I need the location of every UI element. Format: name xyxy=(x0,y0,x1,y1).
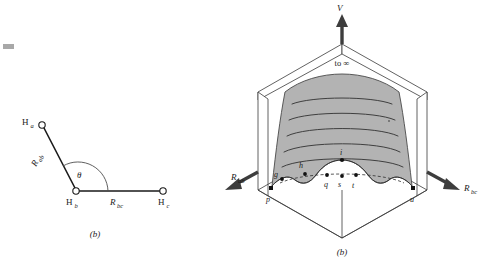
box-floor-inner-edges xyxy=(268,196,417,238)
point-t-label: t xyxy=(352,181,355,190)
axis-rab-subscript: ab xyxy=(238,177,245,184)
bond-bc-subscript: bc xyxy=(117,202,123,209)
atom-hb-label: H b xyxy=(66,197,79,209)
bond-ab-line xyxy=(44,128,76,190)
bond-angle-label: θ xyxy=(77,170,82,180)
axis-rab-symbol: R xyxy=(230,172,237,182)
atom-ha-marker xyxy=(39,122,45,128)
atom-hb-subscript: b xyxy=(75,202,79,209)
potential-surface-body xyxy=(272,74,412,186)
point-q-dot xyxy=(325,173,329,177)
h3-geometry-diagram: H a H b H c R ab R bc xyxy=(22,117,170,239)
point-h-dot xyxy=(303,172,307,176)
box-floor-front-edges xyxy=(258,190,427,238)
point-s-dot xyxy=(340,174,344,178)
point-u-label: u xyxy=(410,195,414,204)
point-p-label: p xyxy=(265,195,270,204)
point-t-dot xyxy=(354,173,358,177)
surface-speck xyxy=(388,120,389,121)
axis-v-arrowhead xyxy=(336,14,348,27)
atom-hc-marker xyxy=(160,188,166,194)
atom-ha-label: H a xyxy=(22,117,34,129)
atom-ha-subscript: a xyxy=(31,122,34,129)
atom-hc-subscript: c xyxy=(167,202,170,209)
point-p-dot xyxy=(269,186,273,190)
axis-rab: R ab xyxy=(225,172,258,190)
scan-artifact-mark xyxy=(3,44,14,49)
panel-left-caption: (b) xyxy=(90,229,101,239)
potential-energy-surface-3d: g h i q s t p u V R ab xyxy=(225,3,477,257)
axis-v-label: V xyxy=(337,3,344,13)
bond-ab-label: R ab xyxy=(28,151,45,169)
bond-bc-label: R bc xyxy=(109,197,123,209)
atom-ha-element: H xyxy=(22,117,29,127)
axis-v: V xyxy=(336,3,348,44)
box-wall-left xyxy=(258,92,268,196)
point-h-label: h xyxy=(299,161,303,170)
point-q-label: q xyxy=(324,180,328,189)
axis-rbc-symbol: R xyxy=(463,183,470,193)
point-i-label: i xyxy=(340,148,342,157)
axis-rbc-arrowhead xyxy=(443,178,460,190)
figure-canvas: H a H b H c R ab R bc xyxy=(0,0,500,262)
point-u-dot xyxy=(411,186,415,190)
point-g-label: g xyxy=(274,170,278,179)
atom-hb-marker xyxy=(73,188,79,194)
atom-hc-label: H c xyxy=(158,197,170,209)
atom-hc-element: H xyxy=(158,197,165,207)
bond-bc-symbol: R xyxy=(109,197,116,207)
atom-hb-element: H xyxy=(66,197,73,207)
box-wall-right xyxy=(417,92,427,196)
point-s-label: s xyxy=(338,180,341,189)
axis-rbc: R bc xyxy=(427,172,477,195)
point-g-dot xyxy=(280,177,284,181)
figure-root: H a H b H c R ab R bc xyxy=(0,0,500,262)
panel-right-caption: (b) xyxy=(337,247,348,257)
axis-rbc-subscript: bc xyxy=(471,188,477,195)
point-i-dot xyxy=(340,158,344,162)
to-infinity-label: to ∞ xyxy=(335,58,350,68)
bond-ab-subscript: ab xyxy=(36,153,46,163)
